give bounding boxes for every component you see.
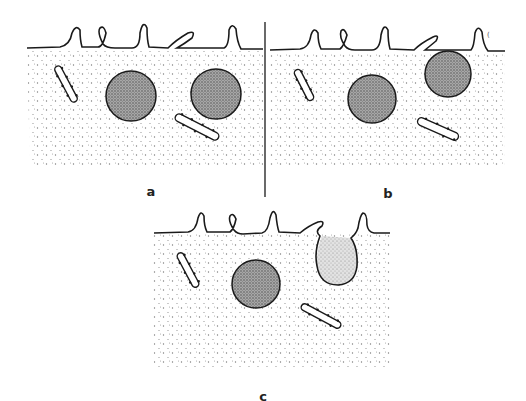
panel-a: [27, 24, 263, 165]
panel-label-b: b: [383, 186, 392, 201]
panel-c: [152, 212, 390, 368]
particle: [191, 69, 241, 119]
particle-at-surface: [425, 51, 471, 97]
diagram-figure: (: [0, 0, 526, 401]
particle: [348, 75, 396, 123]
panel-label-a: a: [147, 184, 156, 199]
membrane-pocket: [317, 236, 357, 285]
particle: [232, 260, 280, 308]
stray-mark: (: [487, 31, 490, 39]
panel-b: (: [270, 27, 505, 167]
particle: [106, 71, 156, 121]
cell-surface-membrane: [270, 27, 505, 51]
cell-surface-membrane: [27, 24, 263, 49]
panel-label-c: c: [259, 389, 267, 401]
